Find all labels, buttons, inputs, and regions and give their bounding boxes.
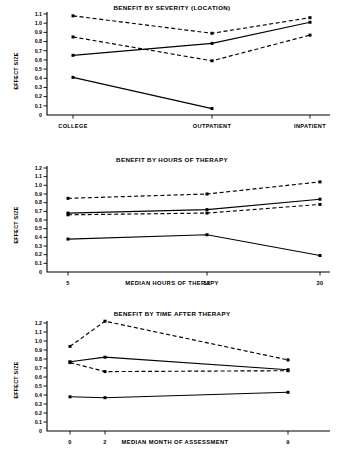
data-point-marker xyxy=(72,54,75,57)
data-point-marker xyxy=(206,212,209,215)
data-point-marker xyxy=(211,32,214,35)
data-point-marker xyxy=(104,320,107,323)
y-tick-label: 0.5 xyxy=(17,225,42,231)
data-point-marker xyxy=(72,35,75,38)
data-point-marker xyxy=(69,345,72,348)
data-point-marker xyxy=(309,34,312,37)
y-tick-label: 0.9 xyxy=(17,191,42,197)
data-point-marker xyxy=(206,193,209,196)
series-line-series-1-dashed-upper xyxy=(73,16,310,33)
series-line-series-1-dashed-upper xyxy=(68,182,320,198)
data-point-marker xyxy=(319,254,322,257)
chart-canvas-time xyxy=(0,305,344,461)
data-point-marker xyxy=(287,358,290,361)
x-tick-label: COLLEGE xyxy=(33,123,113,129)
data-point-marker xyxy=(309,16,312,19)
y-tick-label: 0.1 xyxy=(17,260,42,266)
y-tick-label: 0.4 xyxy=(17,75,42,81)
y-tick-label: 1.1 xyxy=(17,329,42,335)
data-point-marker xyxy=(69,361,72,364)
data-point-marker xyxy=(211,42,214,45)
series-line-series-4-solid-lower xyxy=(73,77,212,108)
series-line-series-4-solid-lower xyxy=(70,392,288,397)
x-axis-title: MEDIAN HOURS OF THERAPY xyxy=(125,280,219,286)
series-line-series-4-solid-lower xyxy=(68,235,320,256)
y-tick-label: 0.6 xyxy=(17,374,42,380)
x-tick-label: INPATIENT xyxy=(270,123,344,129)
data-point-marker xyxy=(211,59,214,62)
y-tick-label: 0 xyxy=(17,428,42,434)
y-tick-label: 0.5 xyxy=(17,383,42,389)
x-tick-label: OUTPATIENT xyxy=(172,123,252,129)
x-axis-title: MEDIAN MONTH OF ASSESSMENT xyxy=(121,439,228,445)
data-point-marker xyxy=(319,180,322,183)
y-tick-label: 0.2 xyxy=(17,251,42,257)
y-tick-label: 0.7 xyxy=(17,48,42,54)
chart-panel-severity: BENEFIT BY SEVERITY (LOCATION) EFFECT SI… xyxy=(0,0,344,150)
y-tick-label: 0.6 xyxy=(17,217,42,223)
x-tick-label: 5 xyxy=(28,280,108,286)
axis-lines xyxy=(47,321,330,431)
y-tick-label: 0.1 xyxy=(17,103,42,109)
y-tick-label: 0.8 xyxy=(17,199,42,205)
data-point-marker xyxy=(67,197,70,200)
data-point-marker xyxy=(287,369,290,372)
y-tick-label: 1.0 xyxy=(17,338,42,344)
series-line-series-2-solid-upper xyxy=(68,199,320,213)
data-point-marker xyxy=(72,76,75,79)
series-line-series-3-solid-upper xyxy=(73,22,310,55)
series-line-series-2-dashed-lower xyxy=(73,35,310,61)
data-point-marker xyxy=(309,21,312,24)
x-tick-label: 9 xyxy=(248,439,328,445)
y-tick-label: 0.2 xyxy=(17,410,42,416)
data-point-marker xyxy=(206,208,209,211)
y-tick-label: 0.3 xyxy=(17,243,42,249)
data-point-marker xyxy=(211,107,214,110)
axis-lines xyxy=(47,166,330,272)
y-tick-label: 0 xyxy=(17,269,42,275)
data-point-marker xyxy=(319,203,322,206)
data-point-marker xyxy=(104,396,107,399)
y-tick-label: 0.3 xyxy=(17,84,42,90)
y-tick-label: 0.4 xyxy=(17,234,42,240)
y-tick-label: 0.7 xyxy=(17,365,42,371)
series-line-series-2-solid-upper xyxy=(70,357,288,370)
chart-panel-time: BENEFIT BY TIME AFTER THERAPY EFFECT SIZ… xyxy=(0,305,344,461)
y-tick-label: 0.9 xyxy=(17,347,42,353)
y-tick-label: 0.4 xyxy=(17,392,42,398)
data-point-marker xyxy=(104,356,107,359)
data-point-marker xyxy=(67,238,70,241)
y-tick-label: 0 xyxy=(17,112,42,118)
y-tick-label: 0.7 xyxy=(17,208,42,214)
data-point-marker xyxy=(287,391,290,394)
y-tick-label: 0.1 xyxy=(17,419,42,425)
data-point-marker xyxy=(69,395,72,398)
y-tick-label: 0.8 xyxy=(17,356,42,362)
data-point-marker xyxy=(72,14,75,17)
y-tick-label: 0.6 xyxy=(17,57,42,63)
y-tick-label: 0.5 xyxy=(17,66,42,72)
chart-panel-hours: BENEFIT BY HOURS OF THERAPY EFFECT SIZE … xyxy=(0,150,344,305)
y-tick-label: 0.2 xyxy=(17,93,42,99)
y-tick-label: 1.1 xyxy=(17,11,42,17)
data-point-marker xyxy=(104,370,107,373)
data-point-marker xyxy=(206,233,209,236)
y-tick-label: 0.9 xyxy=(17,29,42,35)
y-tick-label: 1.0 xyxy=(17,182,42,188)
y-tick-label: 1.1 xyxy=(17,173,42,179)
data-point-marker xyxy=(67,213,70,216)
y-tick-label: 0.8 xyxy=(17,38,42,44)
y-tick-label: 1.2 xyxy=(17,320,42,326)
x-tick-label: 30 xyxy=(280,280,344,286)
data-point-marker xyxy=(319,198,322,201)
series-line-series-1-dashed-upper xyxy=(70,321,288,360)
y-tick-label: 1.0 xyxy=(17,20,42,26)
y-tick-label: 0.3 xyxy=(17,401,42,407)
y-tick-label: 1.2 xyxy=(17,165,42,171)
